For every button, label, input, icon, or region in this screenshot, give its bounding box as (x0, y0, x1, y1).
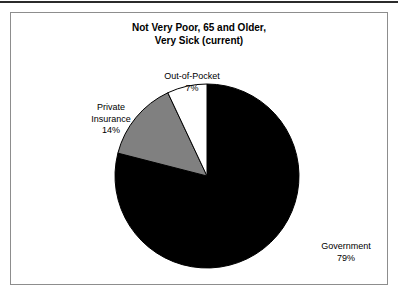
chart-title-line-2: Very Sick (current) (11, 35, 387, 48)
pie-label-government: Government 79% (303, 241, 389, 264)
chart-screenshot: Not Very Poor, 65 and Older, Very Sick (… (0, 0, 398, 293)
top-divider-rule (0, 1, 398, 3)
pie-label-government-name: Government (303, 241, 389, 253)
chart-frame: Not Very Poor, 65 and Older, Very Sick (… (10, 12, 388, 285)
chart-title: Not Very Poor, 65 and Older, Very Sick (… (11, 22, 387, 47)
pie-label-out-of-pocket: Out-of-Pocket 7% (142, 71, 242, 94)
pie-label-government-value: 79% (303, 253, 389, 265)
pie-label-private-insurance-name-line-1: Private (61, 102, 161, 114)
pie-label-private-insurance-name-line-2: Insurance (61, 114, 161, 126)
pie-label-out-of-pocket-value: 7% (142, 83, 242, 95)
pie-label-private-insurance: Private Insurance 14% (61, 102, 161, 137)
chart-title-line-1: Not Very Poor, 65 and Older, (132, 22, 266, 33)
pie-label-out-of-pocket-name: Out-of-Pocket (142, 71, 242, 83)
pie-label-private-insurance-value: 14% (61, 125, 161, 137)
